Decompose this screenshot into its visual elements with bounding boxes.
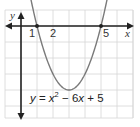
x-tick-label-5: 5 — [103, 27, 109, 39]
x-tick-label-1: 1 — [29, 27, 35, 39]
x-axis-left-arrow-icon — [5, 23, 12, 30]
equation-label: y = x2 − 6x + 5 — [29, 90, 104, 104]
x-tick-label-2: 2 — [50, 27, 56, 39]
y-axis-label: y — [9, 9, 15, 21]
y-axis-up-arrow-icon — [18, 12, 25, 19]
parabola-graph: y x 1 2 5 y = x2 − 6x + 5 — [0, 0, 140, 127]
y-axis — [18, 12, 25, 120]
x-intercept-point-1 — [35, 24, 39, 28]
x-axis-label: x — [124, 27, 130, 39]
x-axis — [5, 23, 134, 30]
y-axis-down-arrow-icon — [18, 113, 25, 120]
